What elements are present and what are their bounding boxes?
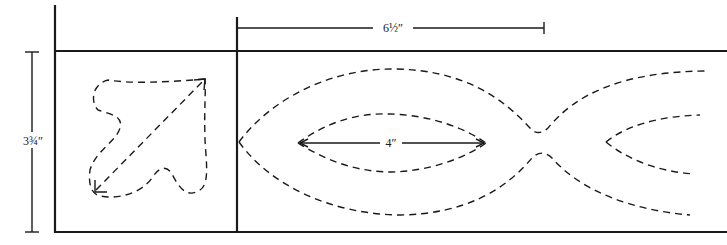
inner-length-dimension: 4″ [300, 136, 484, 150]
height-label: 3¾″ [23, 134, 43, 148]
width-label: 6½″ [383, 21, 403, 35]
inner-length-label: 4″ [386, 136, 397, 150]
fish-chain-motif [239, 69, 705, 215]
height-dimension: 3¾″ [16, 52, 50, 232]
width-dimension: 6½″ [237, 20, 544, 35]
corner-arrow-motif [89, 79, 206, 197]
border-pattern-diagram: 6½″ 3¾″ 4″ [0, 0, 727, 245]
